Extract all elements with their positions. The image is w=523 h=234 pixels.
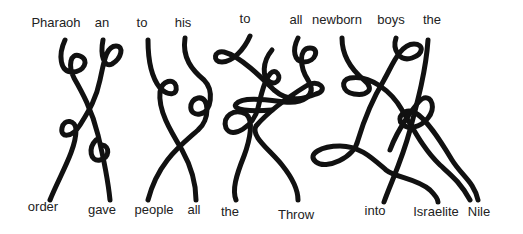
bottom-word-into: into	[365, 204, 386, 217]
top-word-his: his	[175, 16, 192, 29]
bottom-word-gave: gave	[88, 203, 116, 216]
strand-his	[148, 38, 210, 200]
top-word-the: the	[423, 13, 441, 26]
top-word-pharaoh: Pharaoh	[31, 16, 80, 29]
top-word-an: an	[95, 16, 109, 29]
bottom-word-order: order	[28, 200, 58, 213]
bottom-word-throw: Throw	[278, 208, 314, 221]
bottom-word-people: people	[134, 203, 173, 216]
bottom-word-all: all	[187, 203, 200, 216]
bottom-word-nile: Nile	[468, 205, 490, 218]
tangled-lines	[0, 0, 523, 234]
bottom-word-the: the	[221, 205, 239, 218]
strand-boys	[313, 38, 438, 202]
top-word-boys: boys	[377, 13, 404, 26]
top-word-all: all	[289, 13, 302, 26]
top-word-to-2: to	[240, 12, 251, 25]
top-word-to: to	[137, 16, 148, 29]
top-word-newborn: newborn	[312, 13, 362, 26]
bottom-word-israelite: Israelite	[413, 205, 459, 218]
tangle-diagram: Pharaoh an to his to all newborn boys th…	[0, 0, 523, 234]
